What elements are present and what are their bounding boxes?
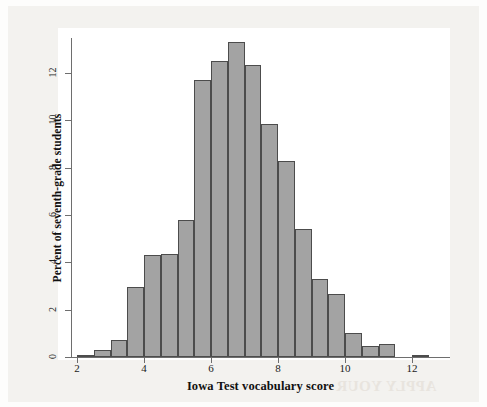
- y-axis-tick-mark: [65, 310, 71, 311]
- histogram-bar: [379, 344, 396, 357]
- histogram-bar: [412, 355, 429, 357]
- histogram-bar: [211, 61, 228, 357]
- histogram-bar: [312, 279, 329, 357]
- histogram-bar: [194, 80, 211, 357]
- x-axis-tick-label: 10: [333, 362, 357, 375]
- histogram-bar: [261, 124, 278, 357]
- y-axis-tick-mark: [65, 215, 71, 216]
- x-axis-line: [71, 357, 450, 358]
- histogram-bar: [161, 254, 178, 357]
- histogram-bar: [278, 161, 295, 357]
- y-axis-tick-mark: [65, 357, 71, 358]
- histogram-bar: [77, 355, 94, 357]
- histogram-bar: [228, 42, 245, 357]
- y-axis-tick-mark: [65, 73, 71, 74]
- histogram-bar: [111, 340, 128, 357]
- x-axis-tick-label: 2: [65, 362, 89, 375]
- y-axis-tick-label: 0: [47, 347, 58, 367]
- x-axis-tick-label: 4: [132, 362, 156, 375]
- histogram-bar: [178, 220, 195, 357]
- y-axis-tick-mark: [65, 262, 71, 263]
- y-axis-tick-mark: [65, 168, 71, 169]
- histogram-bar: [362, 346, 379, 357]
- histogram-plot: 024681012 24681012 Percent of seventh-gr…: [0, 0, 487, 407]
- y-axis-line: [71, 38, 72, 358]
- histogram-bar: [345, 333, 362, 357]
- x-axis-tick-label: 6: [199, 362, 223, 375]
- histogram-bar: [144, 255, 161, 357]
- figure-page: APPLY YOUR 024681012 24681012 Percent of…: [0, 0, 487, 407]
- histogram-bar: [245, 65, 262, 357]
- y-axis-tick-mark: [65, 120, 71, 121]
- histogram-bar: [328, 294, 345, 357]
- x-axis-title: Iowa Test vocabulary score: [71, 379, 450, 394]
- histogram-bar: [295, 229, 312, 357]
- histogram-bar: [127, 287, 144, 357]
- x-axis-tick-label: 12: [400, 362, 424, 375]
- y-axis-title: Percent of seventh-grade students: [51, 78, 63, 318]
- x-axis-tick-label: 8: [266, 362, 290, 375]
- histogram-bar: [94, 350, 111, 357]
